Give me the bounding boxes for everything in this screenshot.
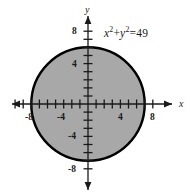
x-axis-label: x	[179, 99, 183, 109]
y-tick-label-pos8: 8	[72, 27, 77, 37]
x-tick-label-neg8: -8	[25, 113, 33, 123]
x-tick-label-pos8: 8	[150, 113, 155, 123]
y-tick-label-neg8: -8	[68, 165, 76, 175]
circle-graph-figure: y x x2+y2=49 -8 -4 4 8 8 4 -4 -8	[0, 0, 190, 196]
x-tick-label-neg4: -4	[57, 113, 65, 123]
y-tick-label-pos4: 4	[72, 60, 77, 70]
x-tick-label-pos4: 4	[118, 113, 123, 123]
coordinate-plane-svg	[0, 0, 190, 196]
y-axis-label: y	[85, 5, 89, 15]
equation-value: 49	[136, 27, 148, 39]
equation-annotation: x2+y2=49	[104, 28, 148, 40]
y-tick-label-neg4: -4	[68, 132, 76, 142]
